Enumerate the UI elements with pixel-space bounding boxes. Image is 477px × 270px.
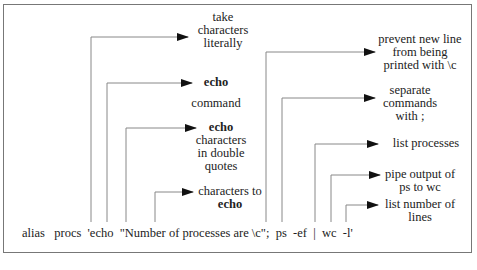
- alias-command-line: alias procs 'echo "Number of processes a…: [22, 226, 353, 241]
- label-line: literally: [188, 37, 258, 50]
- label-line: printed with \c: [375, 59, 465, 72]
- label-line: ps to wc: [380, 181, 460, 194]
- label-line: command: [186, 97, 246, 110]
- label-line: echo: [218, 197, 242, 211]
- annotation-pipe-output: pipe output of ps to wc: [380, 168, 460, 194]
- annotation-chars-to-echo: characters to echo: [194, 185, 266, 211]
- annotation-echo-double-quotes: echo characters in double quotes: [186, 121, 256, 173]
- annotation-take-literally: take characters literally: [188, 11, 258, 50]
- label-line: echo: [204, 75, 228, 89]
- annotation-prevent-newline: prevent new line from being printed with…: [375, 33, 465, 72]
- label-line: lines: [380, 211, 460, 224]
- annotation-list-lines: list number of lines: [380, 198, 460, 224]
- annotation-list-processes: list processes: [386, 137, 466, 150]
- label-line: echo: [209, 120, 233, 134]
- annotation-separate-commands: separate commands with ;: [375, 84, 445, 123]
- annotation-echo-command: echo command: [186, 76, 246, 110]
- label-line: quotes: [186, 160, 256, 173]
- label-line: with ;: [375, 110, 445, 123]
- label-line: list processes: [386, 137, 466, 150]
